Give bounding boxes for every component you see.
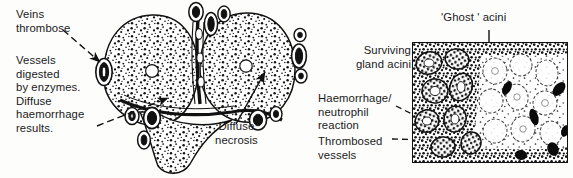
thrombosed-vessel-lower-a — [125, 107, 139, 124]
histology-micrograph — [412, 42, 568, 163]
duct-lumen-right — [240, 60, 252, 72]
thrombosed-vessel-lower-c — [138, 131, 151, 149]
label-veins-thrombose: Veins thrombose — [16, 8, 70, 35]
histology-content — [413, 43, 568, 163]
label-haemorrhage-neutrophil-reaction: Haemorrhage/ neutrophil reaction — [318, 92, 391, 133]
label-thrombosed-vessels: Thrombosed vessels — [318, 135, 382, 162]
thrombosed-vessel-right-b — [292, 44, 307, 68]
thrombosed-vessel-top-b — [204, 13, 217, 36]
thrombosed-vessel-top-a — [189, 2, 203, 21]
label-vessels-digested: Vessels digested by enzymes. Diffuse hae… — [16, 54, 84, 136]
label-diffuse-necrosis: Diffuse necrosis — [215, 120, 258, 147]
label-ghost-acini: 'Ghost ' acini — [441, 11, 506, 25]
thrombosed-vessel-upper-left — [96, 59, 112, 86]
thrombosed-vessel-lower-b — [144, 107, 161, 128]
figure-canvas: Veins thrombose Vessels digested by enzy… — [0, 0, 573, 178]
thrombosed-vessel-right-a — [294, 28, 306, 41]
duct-lumen-left — [146, 65, 159, 78]
thrombosed-vessel-right-c — [295, 69, 307, 83]
label-surviving-gland-acini: Surviving gland acini — [325, 44, 411, 71]
thrombosed-vessel-top-c — [218, 6, 230, 22]
thrombosed-vessel-lowerright-b — [270, 107, 282, 122]
